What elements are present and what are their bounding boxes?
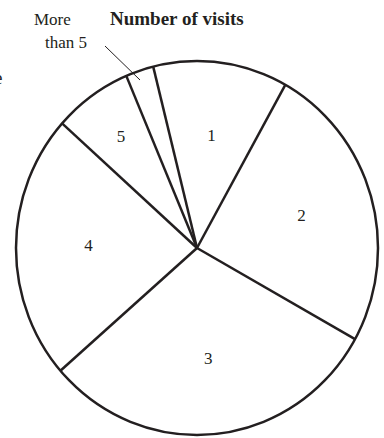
pie-slices bbox=[16, 61, 378, 435]
slice-boundary bbox=[60, 248, 197, 371]
callout-leader-line bbox=[105, 46, 140, 80]
slice-label-4: 4 bbox=[84, 236, 93, 255]
slice-boundary bbox=[197, 248, 355, 339]
slice-label-3: 3 bbox=[204, 349, 213, 368]
slice-label-1: 1 bbox=[207, 126, 216, 145]
slice-boundary bbox=[197, 85, 285, 248]
slice-boundary bbox=[62, 123, 197, 248]
slice-label-5: 5 bbox=[117, 127, 126, 146]
slice-label-2: 2 bbox=[297, 206, 306, 225]
pie-chart: 12345 bbox=[0, 0, 384, 438]
